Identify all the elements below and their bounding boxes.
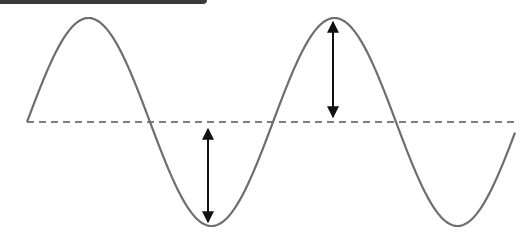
sine-wave-diagram [0,0,527,237]
